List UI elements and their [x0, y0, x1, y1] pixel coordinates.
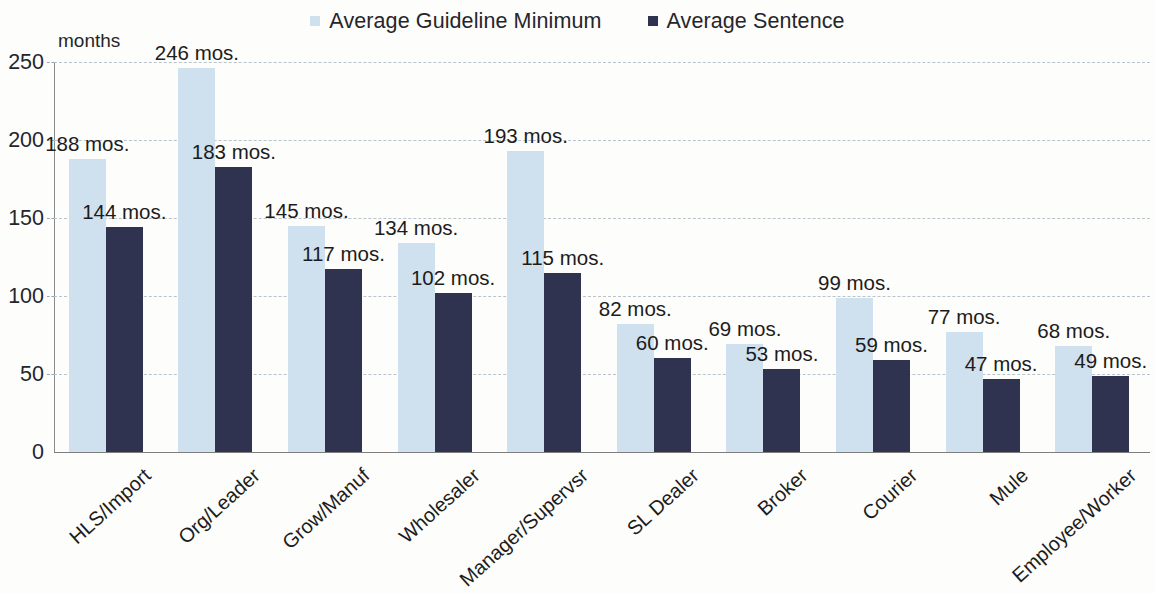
- x-axis-category-label: Mule: [985, 464, 1033, 510]
- bar[interactable]: [1092, 376, 1129, 452]
- bar-value-label: 68 mos.: [1037, 319, 1110, 343]
- bar[interactable]: [215, 167, 252, 452]
- bar-group: 82 mos.60 mos.: [617, 62, 691, 452]
- bar-value-label: 102 mos.: [411, 266, 495, 290]
- bar-group: 145 mos.117 mos.: [288, 62, 362, 452]
- bar-group: 188 mos.144 mos.: [69, 62, 143, 452]
- x-axis-category-label: Broker: [754, 464, 813, 521]
- bar[interactable]: [178, 68, 215, 452]
- bar-value-label: 53 mos.: [745, 342, 818, 366]
- bar-value-label: 183 mos.: [192, 140, 276, 164]
- bar-chart: Average Guideline Minimum Average Senten…: [0, 0, 1155, 594]
- bar[interactable]: [836, 298, 873, 452]
- x-axis-category-label: Courier: [858, 464, 922, 525]
- bar-group: 99 mos.59 mos.: [836, 62, 910, 452]
- bar-value-label: 47 mos.: [965, 352, 1038, 376]
- bar[interactable]: [507, 151, 544, 452]
- x-axis-category-label: HLS/Import: [65, 464, 156, 549]
- bar-value-label: 77 mos.: [928, 305, 1001, 329]
- y-tick-label: 100: [0, 284, 44, 309]
- x-axis-category-label: Org/Leader: [174, 464, 265, 549]
- bar-group: 69 mos.53 mos.: [726, 62, 800, 452]
- bar[interactable]: [763, 369, 800, 452]
- bar[interactable]: [873, 360, 910, 452]
- y-tick-mark: [47, 62, 54, 63]
- legend-swatch-icon: [310, 16, 320, 26]
- bar-group: 193 mos.115 mos.: [507, 62, 581, 452]
- legend-entry-average-sentence[interactable]: Average Sentence: [648, 9, 845, 34]
- bar-group: 68 mos.49 mos.: [1055, 62, 1129, 452]
- bar-value-label: 134 mos.: [374, 216, 458, 240]
- y-tick-label: 250: [0, 50, 44, 75]
- bar-group: 134 mos.102 mos.: [398, 62, 472, 452]
- y-tick-label: 50: [0, 362, 44, 387]
- bar[interactable]: [983, 379, 1020, 452]
- y-tick-mark: [47, 296, 54, 297]
- legend-swatch-icon: [648, 16, 658, 26]
- x-axis-category-label: Manager/Supervsr: [455, 464, 593, 591]
- bar-value-label: 60 mos.: [636, 331, 709, 355]
- bar-value-label: 145 mos.: [264, 199, 348, 223]
- y-tick-mark: [47, 218, 54, 219]
- bar[interactable]: [435, 293, 472, 452]
- bar-value-label: 144 mos.: [82, 200, 166, 224]
- bar-value-label: 99 mos.: [818, 271, 891, 295]
- x-axis-category-label: Employee/Worker: [1008, 464, 1141, 587]
- chart-legend: Average Guideline Minimum Average Senten…: [0, 4, 1155, 38]
- gridline: [54, 452, 1150, 453]
- y-tick-label: 200: [0, 128, 44, 153]
- legend-entry-average-guideline-minimum[interactable]: Average Guideline Minimum: [310, 9, 601, 34]
- legend-label: Average Sentence: [667, 9, 845, 34]
- y-tick-label: 0: [0, 440, 44, 465]
- x-axis-category-label: SL Dealer: [622, 464, 703, 540]
- bar-group: 246 mos.183 mos.: [178, 62, 252, 452]
- x-axis-category-label: Grow/Manuf: [278, 464, 374, 554]
- legend-label: Average Guideline Minimum: [329, 9, 601, 34]
- bar-value-label: 117 mos.: [302, 242, 385, 266]
- bar-value-label: 82 mos.: [599, 297, 672, 321]
- bar-value-label: 246 mos.: [155, 41, 239, 65]
- bar[interactable]: [946, 332, 983, 452]
- plot-area: 188 mos.144 mos.246 mos.183 mos.145 mos.…: [54, 62, 1150, 452]
- bar[interactable]: [654, 358, 691, 452]
- bar-value-label: 188 mos.: [45, 132, 129, 156]
- bar-value-label: 115 mos.: [521, 246, 604, 270]
- bar-value-label: 59 mos.: [855, 333, 928, 357]
- bar-value-label: 193 mos.: [484, 124, 568, 148]
- bar[interactable]: [544, 273, 581, 452]
- bar-value-label: 69 mos.: [708, 317, 781, 341]
- y-tick-mark: [47, 374, 54, 375]
- bar-group: 77 mos.47 mos.: [946, 62, 1020, 452]
- bar[interactable]: [106, 227, 143, 452]
- x-axis-category-label: Wholesaler: [394, 464, 484, 548]
- bar[interactable]: [325, 269, 362, 452]
- y-tick-label: 150: [0, 206, 44, 231]
- y-axis-unit-label: months: [58, 30, 120, 52]
- bar-value-label: 49 mos.: [1074, 349, 1147, 373]
